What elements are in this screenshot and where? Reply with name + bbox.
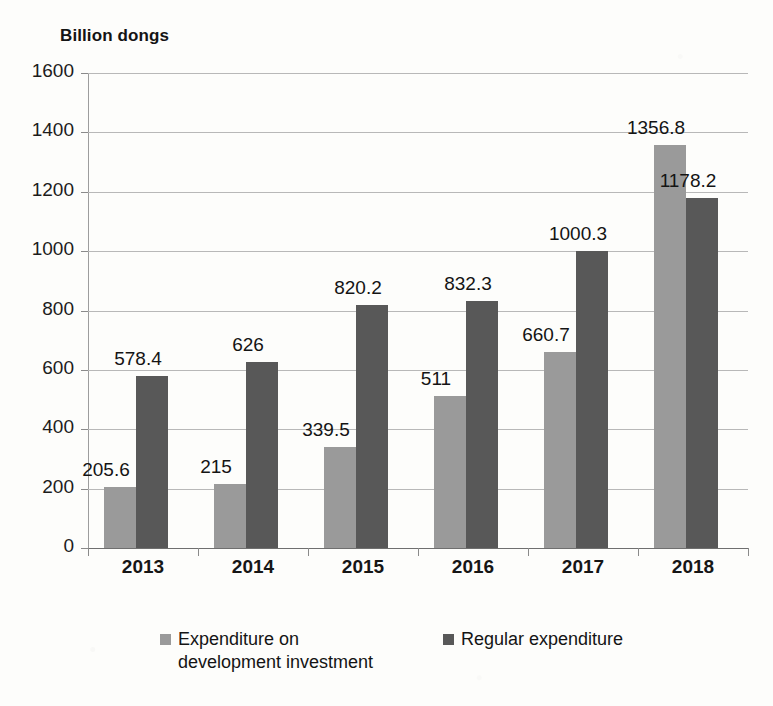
- bar-value-label: 626: [200, 334, 296, 356]
- y-tick-label: 200: [0, 476, 74, 498]
- y-tick-label: 800: [0, 298, 74, 320]
- gridline: [88, 73, 748, 74]
- x-tick-mark: [308, 548, 309, 556]
- y-tick-mark: [81, 489, 88, 490]
- legend-swatch-icon: [443, 634, 454, 645]
- bar-value-label: 339.5: [278, 419, 374, 441]
- x-tick-mark: [418, 548, 419, 556]
- bar-value-label: 1000.3: [530, 223, 626, 245]
- x-tick-label: 2015: [313, 556, 413, 578]
- y-tick-label: 400: [0, 416, 74, 438]
- bar: [686, 198, 718, 548]
- bar-value-label: 660.7: [498, 324, 594, 346]
- bar-value-label: 215: [168, 456, 264, 478]
- y-tick-label: 1400: [0, 119, 74, 141]
- bar: [466, 301, 498, 548]
- y-tick-label: 1600: [0, 60, 74, 82]
- bar-value-label: 820.2: [310, 277, 406, 299]
- x-tick-mark: [748, 548, 749, 556]
- bar-value-label: 511: [388, 368, 484, 390]
- gridline: [88, 251, 748, 252]
- y-tick-label: 1000: [0, 238, 74, 260]
- bar-chart: Billion dongs 205.6578.4215626339.5820.2…: [0, 0, 773, 706]
- y-tick-label: 600: [0, 357, 74, 379]
- bar: [324, 447, 356, 548]
- legend-label: Expenditure on development investment: [178, 628, 373, 674]
- gridline: [88, 311, 748, 312]
- y-tick-mark: [81, 370, 88, 371]
- y-tick-mark: [81, 132, 88, 133]
- legend-item[interactable]: Expenditure on development investment: [160, 628, 373, 674]
- y-tick-mark: [81, 251, 88, 252]
- legend-label: Regular expenditure: [461, 628, 623, 651]
- legend-swatch-icon: [160, 634, 171, 645]
- legend-item[interactable]: Regular expenditure: [443, 628, 623, 651]
- gridline: [88, 489, 748, 490]
- plot-area: 205.6578.4215626339.5820.2511832.3660.71…: [88, 73, 748, 548]
- bar: [434, 396, 466, 548]
- y-tick-mark: [81, 73, 88, 74]
- bar: [104, 487, 136, 548]
- x-tick-label: 2016: [423, 556, 523, 578]
- y-tick-mark: [81, 311, 88, 312]
- y-tick-mark: [81, 192, 88, 193]
- y-tick-mark: [81, 429, 88, 430]
- x-tick-label: 2013: [93, 556, 193, 578]
- bar: [246, 362, 278, 548]
- x-tick-mark: [528, 548, 529, 556]
- x-tick-mark: [88, 548, 89, 556]
- y-tick-label: 0: [0, 535, 74, 557]
- chart-legend: Expenditure on development investmentReg…: [0, 628, 773, 698]
- y-tick-label: 1200: [0, 179, 74, 201]
- bar-value-label: 1356.8: [608, 117, 704, 139]
- gridline: [88, 429, 748, 430]
- x-tick-mark: [198, 548, 199, 556]
- chart-unit-title: Billion dongs: [60, 26, 169, 46]
- bar-value-label: 1178.2: [640, 170, 736, 192]
- x-tick-label: 2018: [643, 556, 743, 578]
- bar-value-label: 578.4: [90, 348, 186, 370]
- x-tick-label: 2017: [533, 556, 633, 578]
- bar: [576, 251, 608, 548]
- y-tick-mark: [81, 548, 88, 549]
- bar-value-label: 832.3: [420, 273, 516, 295]
- x-tick-label: 2014: [203, 556, 303, 578]
- bar: [654, 145, 686, 548]
- x-tick-mark: [638, 548, 639, 556]
- bar: [214, 484, 246, 548]
- bar: [544, 352, 576, 548]
